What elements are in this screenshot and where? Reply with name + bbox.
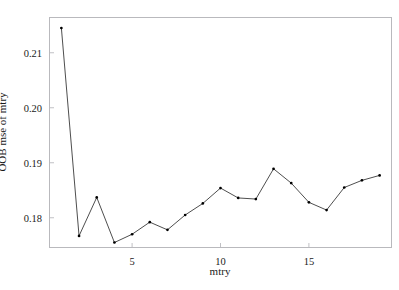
data-point <box>343 186 346 189</box>
data-point <box>237 197 240 200</box>
data-point <box>272 167 275 170</box>
y-tick-label: 0.19 <box>6 157 42 168</box>
axis-ticks <box>49 53 309 248</box>
x-tick-label: 15 <box>304 256 315 267</box>
data-point <box>166 229 169 232</box>
data-point <box>290 182 293 185</box>
data-line <box>61 28 379 243</box>
x-axis-title: mtry <box>210 265 231 277</box>
data-point <box>184 214 187 217</box>
data-point <box>361 179 364 182</box>
data-point <box>219 187 222 190</box>
data-point <box>78 235 81 238</box>
data-point <box>113 241 116 244</box>
data-point <box>131 233 134 236</box>
line-chart-svg <box>0 0 399 290</box>
data-point <box>201 202 204 205</box>
data-point <box>308 201 311 204</box>
data-point <box>60 27 63 30</box>
data-point <box>325 209 328 212</box>
y-axis-title: OOB mse of mtry <box>0 92 8 171</box>
y-tick-label: 0.21 <box>6 47 42 58</box>
data-point <box>255 198 258 201</box>
data-point-markers <box>60 27 381 244</box>
data-point <box>378 174 381 177</box>
data-point <box>148 221 151 224</box>
y-tick-label: 0.20 <box>6 102 42 113</box>
x-tick-label: 5 <box>129 256 134 267</box>
data-point <box>95 196 98 199</box>
figure-container: 0.180.190.200.21 51015 OOB mse of mtry m… <box>0 0 399 290</box>
y-tick-label: 0.18 <box>6 212 42 223</box>
